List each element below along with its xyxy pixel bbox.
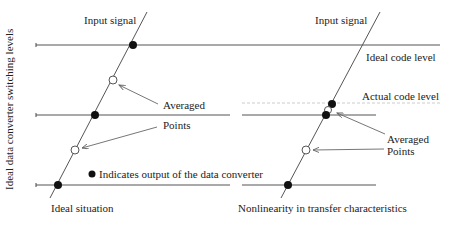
- left-averaged-label: Averaged: [163, 100, 205, 111]
- output-dot: [322, 111, 330, 119]
- right-points-label: Points: [387, 146, 415, 157]
- left-input-signal-label: Input signal: [84, 15, 136, 26]
- averaged-point: [71, 146, 79, 154]
- right-input-signal-label: Input signal: [315, 15, 367, 26]
- output-dot: [284, 181, 292, 189]
- legend-text: Indicates output of the data converter: [99, 169, 263, 180]
- output-dot: [91, 111, 99, 119]
- right-averaged-label: Averaged: [387, 134, 429, 145]
- left-caption: Ideal situation: [51, 203, 114, 214]
- diagram-canvas: [0, 0, 458, 232]
- legend-dot: [89, 171, 96, 178]
- right-caption: Nonlinearity in transfer characteristics: [238, 203, 407, 214]
- averaged-point: [109, 76, 117, 84]
- averaged-point: [302, 146, 310, 154]
- annotation-arrows: [82, 85, 385, 150]
- y-axis-label: Ideal data converter switching levels: [4, 29, 15, 190]
- ideal-code-level-label: Ideal code level: [366, 52, 436, 63]
- output-dot: [54, 181, 62, 189]
- left-points-label: Points: [163, 120, 191, 131]
- output-dot: [129, 41, 137, 49]
- actual-code-level-label: Actual code level: [362, 91, 439, 102]
